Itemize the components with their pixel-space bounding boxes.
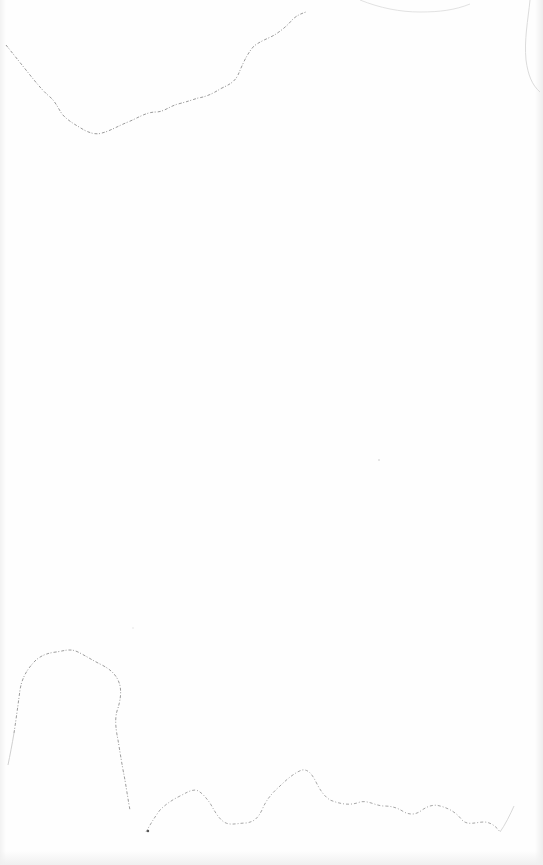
top-contour-line	[6, 12, 306, 134]
bottom-right-faint	[500, 806, 514, 832]
lobe-left-faint	[8, 733, 14, 765]
top-right-faint-arc	[360, 0, 470, 12]
outline-drawing	[0, 0, 543, 865]
speck	[378, 459, 380, 461]
speck	[132, 627, 133, 628]
right-faint-curve	[525, 0, 540, 92]
paper-canvas	[0, 0, 543, 865]
bottom-contour-line	[146, 770, 500, 832]
bottom-left-lobe-line	[14, 650, 130, 810]
speck	[147, 830, 149, 832]
